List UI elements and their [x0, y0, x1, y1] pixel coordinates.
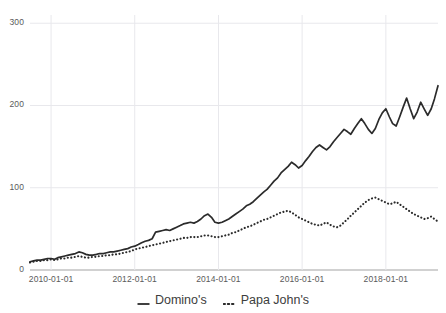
legend-label-papa-johns: Papa John's — [241, 293, 309, 307]
y-tick-label: 200 — [0, 99, 24, 109]
line-chart: 0100200300 2010-01-012012-01-012014-01-0… — [0, 0, 446, 313]
plot-area — [0, 0, 446, 313]
legend-label-dominos: Domino's — [155, 293, 207, 307]
x-tick-label: 2018-01-01 — [346, 274, 426, 284]
legend-item-papa-johns[interactable]: Papa John's — [223, 293, 309, 307]
series-line-domino-s — [30, 86, 438, 262]
gridlines — [30, 15, 438, 270]
y-tick-label: 300 — [0, 17, 24, 27]
x-tick-label: 2010-01-01 — [11, 274, 91, 284]
y-tick-label: 100 — [0, 182, 24, 192]
solid-line-swatch — [137, 295, 150, 305]
chart-legend: Domino's Papa John's — [0, 293, 446, 307]
x-tick-label: 2016-01-01 — [262, 274, 342, 284]
series-line-papa-john-s — [30, 198, 438, 263]
y-tick-label: 0 — [0, 264, 24, 274]
x-tick-label: 2012-01-01 — [95, 274, 175, 284]
series-layer — [30, 86, 438, 263]
x-tick-label: 2014-01-01 — [178, 274, 258, 284]
dotted-line-swatch — [223, 295, 236, 305]
legend-item-dominos[interactable]: Domino's — [137, 293, 207, 307]
